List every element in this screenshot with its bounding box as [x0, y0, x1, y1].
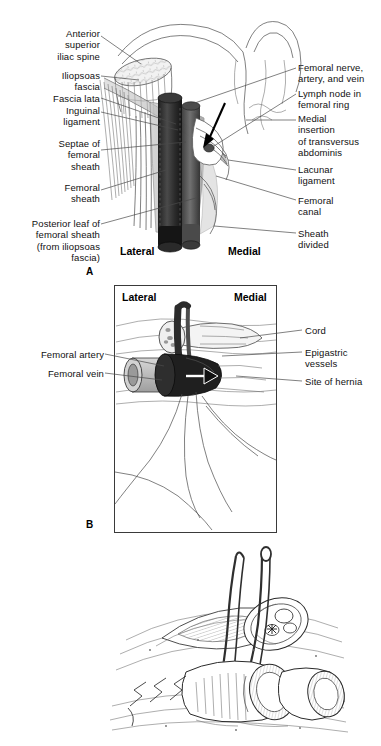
panel-a-artwork [0, 0, 381, 280]
panel-b-artwork [0, 280, 381, 540]
figure-root: Anterior superior iliac spine Iliopsoas … [0, 0, 381, 746]
panel-c-artwork [0, 530, 381, 746]
